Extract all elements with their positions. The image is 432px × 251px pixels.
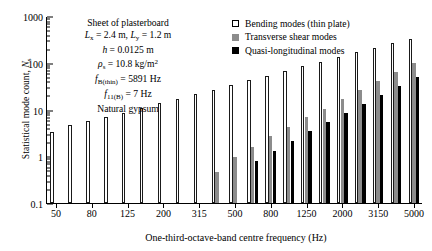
y-minor-tick [47, 35, 50, 36]
annotation-text: = 1.2 m [139, 29, 171, 40]
annotation-text: B(thin) [98, 78, 118, 86]
legend-swatch-quasi-icon [232, 47, 239, 54]
bar-bending-1000 [283, 71, 286, 203]
x-tick-mark [199, 203, 200, 208]
bar-bending-630 [247, 80, 250, 203]
y-minor-tick [47, 115, 50, 116]
bar-shear-1000 [287, 127, 290, 203]
bar-quasi-1000 [291, 141, 294, 203]
x-tick-mark [92, 203, 93, 208]
y-minor-tick [47, 82, 50, 83]
legend-item-shear[interactable]: Transverse shear modes [232, 30, 350, 43]
bar-shear-400 [215, 172, 218, 203]
bar-shear-500 [233, 157, 236, 203]
annotation-line-3: ρs = 10.8 kg/m2 [58, 56, 198, 73]
y-minor-tick [47, 19, 50, 20]
y-minor-tick [47, 49, 50, 50]
y-minor-tick [47, 120, 50, 121]
y-tick-label: 1000 [23, 12, 43, 23]
x-tick-label: 80 [87, 208, 97, 219]
bar-bending-160 [140, 108, 143, 203]
chart-legend: Bending modes (thin plate)Transverse she… [232, 17, 350, 57]
x-tick-label: 800 [263, 208, 278, 219]
bar-bending-100 [104, 117, 107, 203]
bar-shear-4000 [394, 72, 397, 203]
y-minor-tick [47, 27, 50, 28]
bar-shear-3150 [376, 81, 379, 203]
bar-bending-400 [212, 90, 215, 203]
x-tick-mark [378, 203, 379, 208]
y-minor-tick [47, 68, 50, 69]
y-tick-mark [47, 63, 53, 64]
annotation-text: = 5891 Hz [118, 73, 161, 84]
bar-quasi-3150 [380, 95, 383, 203]
x-tick-label: 315 [192, 208, 207, 219]
y-axis-title-text: Statistical mode count, [21, 68, 31, 160]
bar-shear-800 [269, 136, 272, 203]
y-minor-tick [47, 124, 50, 125]
legend-item-quasi[interactable]: Quasi-longitudinal modes [232, 44, 350, 57]
annotation-text: 2 [154, 58, 158, 66]
x-tick-label: 200 [156, 208, 171, 219]
annotation-text: Natural gypsum [97, 103, 159, 114]
bar-shear-2000 [341, 99, 344, 203]
bar-quasi-4000 [398, 86, 401, 203]
y-minor-tick [47, 31, 50, 32]
y-minor-tick [47, 96, 50, 97]
annotation-text: = 10.8 kg/m [105, 59, 154, 70]
y-minor-tick [47, 117, 50, 118]
bar-bending-5000 [409, 39, 412, 203]
y-minor-tick [47, 112, 50, 113]
legend-swatch-bending-icon [232, 20, 239, 27]
x-tick-mark [342, 203, 343, 208]
bar-bending-800 [265, 76, 268, 203]
y-tick-mark [47, 204, 53, 205]
bar-bending-2000 [337, 57, 340, 203]
legend-swatch-shear-icon [232, 34, 239, 41]
x-axis-title: One-third-octave-band centre frequency (… [40, 232, 432, 243]
y-tick-mark [47, 17, 53, 18]
y-tick-label: 1 [38, 152, 43, 163]
y-tick-label: 10 [33, 105, 43, 116]
annotation-line-2: h = 0.0125 m [58, 44, 198, 56]
bar-bending-80 [86, 121, 89, 203]
x-tick-mark [414, 203, 415, 208]
annotation-text: = 0.0125 m [107, 44, 153, 55]
bar-shear-5000 [412, 63, 415, 203]
bar-quasi-630 [255, 161, 258, 203]
chart-figure: Statistical mode count, Ns One-third-oct… [0, 0, 432, 251]
x-tick-mark [307, 203, 308, 208]
annotation-line-5: f11(B) = 7 Hz [58, 88, 198, 103]
bar-bending-2500 [355, 52, 358, 203]
annotation-text: Sheet of plasterboard [87, 17, 169, 28]
bar-shear-1600 [323, 109, 326, 203]
bar-bending-63 [68, 125, 71, 203]
y-minor-tick [47, 74, 50, 75]
x-tick-label: 2000 [332, 208, 352, 219]
bar-shear-630 [251, 147, 254, 203]
bar-bending-200 [158, 103, 161, 203]
bar-bending-50 [50, 132, 53, 203]
annotation-text: 11(B) [107, 93, 123, 101]
bar-shear-2500 [358, 90, 361, 203]
annotation-line-0: Sheet of plasterboard [58, 17, 198, 29]
x-tick-mark [163, 203, 164, 208]
x-tick-label: 500 [228, 208, 243, 219]
bar-quasi-2500 [362, 104, 365, 203]
y-tick-label: 0.1 [31, 199, 44, 210]
bar-quasi-2000 [344, 113, 347, 203]
bar-bending-1250 [301, 66, 304, 203]
bar-quasi-800 [273, 151, 276, 203]
annotation-block: Sheet of plasterboardLx = 2.4 m, Ly = 1.… [58, 17, 198, 115]
x-tick-mark [235, 203, 236, 208]
annotation-line-4: fB(thin) = 5891 Hz [58, 73, 198, 88]
bar-bending-125 [122, 113, 125, 203]
y-minor-tick [47, 70, 50, 71]
x-tick-label: 3150 [368, 208, 388, 219]
legend-item-bending[interactable]: Bending modes (thin plate) [232, 17, 350, 30]
x-tick-label: 125 [120, 208, 135, 219]
bar-shear-1250 [305, 117, 308, 203]
bar-bending-3150 [373, 48, 376, 203]
bar-quasi-1250 [308, 131, 311, 203]
legend-label: Transverse shear modes [245, 30, 337, 43]
